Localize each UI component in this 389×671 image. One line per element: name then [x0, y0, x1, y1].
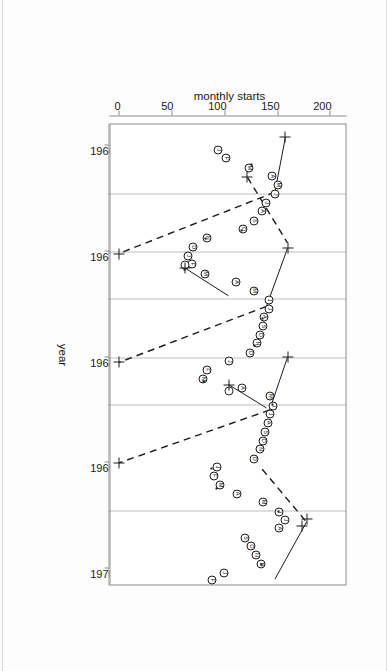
data-point-marker: F	[209, 471, 218, 480]
data-point-marker: D	[245, 348, 254, 357]
data-point-marker: M	[249, 286, 258, 295]
small-dot-marker	[277, 510, 279, 512]
gridline	[109, 193, 346, 194]
plus-marker	[297, 520, 308, 531]
small-dot-marker	[216, 487, 218, 489]
y-tick-label: 200	[306, 99, 332, 111]
data-point-marker: O	[246, 541, 255, 550]
data-point-marker: A	[267, 171, 276, 180]
plus-marker	[280, 131, 291, 142]
data-point-marker: J	[270, 189, 279, 198]
plus-marker	[113, 248, 124, 259]
data-point-marker: D	[188, 242, 197, 251]
small-dot-marker	[251, 163, 253, 165]
data-point-marker: M	[274, 180, 283, 189]
small-dot-marker	[211, 467, 213, 469]
gridline	[109, 251, 346, 252]
plus-marker	[180, 262, 191, 273]
small-dot-marker	[204, 237, 206, 239]
plot-stage: year monthly starts 19661967196819691970…	[35, 67, 355, 612]
data-point-marker: S	[249, 216, 258, 225]
data-point-marker: A	[232, 489, 241, 498]
data-point-marker: J	[214, 145, 223, 154]
small-dot-marker	[202, 380, 204, 382]
data-point-marker: S	[241, 533, 250, 542]
data-point-marker: F	[207, 575, 216, 584]
rotated-plot-wrapper: year monthly starts 19661967196819691970…	[0, 4, 389, 671]
small-dot-marker	[272, 403, 274, 405]
gridline	[109, 510, 346, 511]
data-point-marker: J	[281, 515, 290, 524]
data-point-marker: J	[224, 356, 233, 365]
small-dot-marker	[260, 563, 262, 565]
plus-marker	[282, 351, 293, 362]
data-point-marker: D	[249, 454, 258, 463]
data-point-marker: M	[265, 391, 274, 400]
y-tick-label: 50	[148, 99, 174, 111]
y-tick-label: 0	[95, 99, 121, 111]
data-point-marker: A	[275, 523, 284, 532]
data-point-marker: M	[259, 497, 268, 506]
data-point-marker: A	[263, 418, 272, 427]
y-tick-label: 150	[253, 99, 279, 111]
data-point-marker: A	[231, 277, 240, 286]
plus-marker	[282, 242, 293, 253]
gridline	[109, 298, 346, 299]
trend-line-segment	[262, 469, 306, 522]
y-axis-line	[110, 115, 347, 116]
data-point-marker: O	[256, 330, 265, 339]
data-point-marker: J	[264, 304, 273, 313]
data-point-marker: A	[258, 206, 267, 215]
data-point-marker: J	[264, 295, 273, 304]
trend-line-segment	[119, 410, 270, 463]
data-point-marker: N	[256, 444, 265, 453]
plus-marker	[223, 379, 234, 390]
gridline	[109, 404, 346, 405]
plus-marker	[113, 457, 124, 468]
data-point-marker: A	[238, 383, 247, 392]
trend-line-segment	[119, 306, 267, 362]
small-dot-marker	[254, 344, 256, 346]
small-dot-marker	[240, 229, 242, 231]
figure-page: year monthly starts 19661967196819691970…	[0, 0, 389, 671]
small-dot-marker	[261, 317, 263, 319]
data-point-marker: N	[251, 550, 260, 559]
y-tick-label: 100	[200, 99, 226, 111]
plus-marker	[113, 356, 124, 367]
plus-marker	[242, 171, 253, 182]
plot-panel: JFMAMJJASONDJFMAMJJASONDJFMAMJJASONDJFMA…	[110, 123, 347, 585]
data-point-marker: J	[212, 462, 221, 471]
data-point-marker: J	[265, 409, 274, 418]
plot-panel-inner: JFMAMJJASONDJFMAMJJASONDJFMAMJJASONDJFMA…	[111, 124, 346, 584]
x-axis-title: year	[57, 67, 69, 642]
data-point-marker: J	[220, 568, 229, 577]
